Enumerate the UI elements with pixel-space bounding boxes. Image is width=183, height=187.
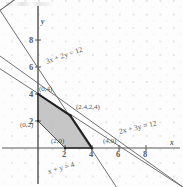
y-tick-label-8: 8 [29,36,33,45]
line-3x-2y-12-path [0,10,122,187]
x-axis-label: x [170,139,174,147]
line-3x-2y-12-main [0,11,123,187]
x-tick-label-4: 4 [89,150,93,159]
y-tick-label-6: 6 [29,63,33,72]
vertex-label-4-0: (4,0) [103,138,116,145]
vertex-label-0-2: (0,2) [20,122,33,129]
vertex-dot-0-2 [37,120,39,122]
line-3x-2y-12 [0,0,183,10]
y-tick-label-4: 4 [29,90,33,99]
y-axis-label: y [41,18,44,26]
x-tick-label-6: 6 [116,150,120,159]
vertex-label-0-4: (0,4) [39,86,52,93]
line-3x-2y-12-visible [0,0,120,10]
x-tick-label-8: 8 [143,150,147,159]
linear-programming-figure: x y 2 4 6 8 2 4 6 8 3x + 2y = 12 2x + 3y… [0,0,183,187]
vertex-dot-24-24 [69,114,72,117]
vertex-label-24-24: (2.4,2.4) [76,104,100,111]
vertex-label-2-0: (2,0) [51,138,64,145]
x-tick-label-2: 2 [62,150,66,159]
vertex-dot-0-4 [37,93,40,96]
